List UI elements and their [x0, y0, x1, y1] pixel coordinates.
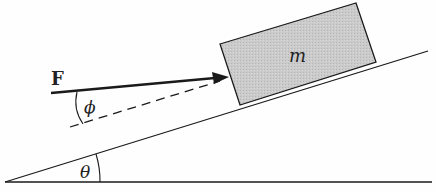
theta-arc	[96, 154, 100, 182]
theta-label: θ	[80, 162, 90, 182]
phi-label: ϕ	[84, 97, 96, 117]
phi-arc	[76, 92, 83, 124]
incline-line	[5, 51, 428, 182]
force-label: F	[51, 68, 64, 89]
diagram-canvas: θ m F ϕ	[0, 0, 436, 192]
incline-diagram: θ m F ϕ	[0, 0, 436, 192]
mass-label: m	[289, 45, 306, 66]
